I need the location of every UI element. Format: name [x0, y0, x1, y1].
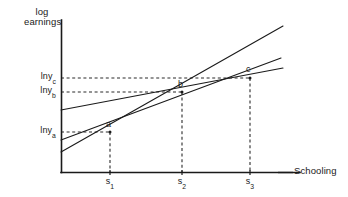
- point-marker-a: [109, 131, 112, 134]
- point-label-a: a: [106, 120, 111, 129]
- axes-group: [61, 20, 300, 173]
- x-tick-label-s3: s3: [241, 177, 259, 186]
- y-tick-label-lnyc: lnyc: [22, 72, 56, 81]
- x-tick-label-s2-sub: 2: [182, 183, 186, 190]
- x-tick-label-s1-sub: 1: [110, 183, 114, 190]
- y-tick-label-lnyb-sub: b: [52, 92, 56, 99]
- data-lines-group: [61, 26, 283, 152]
- y-tick-label-lnya-base: lny: [40, 125, 52, 135]
- y-tick-label-lnyc-base: lny: [41, 71, 53, 81]
- x-tick-label-s1: s1: [101, 177, 119, 186]
- y-tick-label-lnyc-sub: c: [53, 78, 57, 85]
- y-tick-label-lnyb-base: lny: [40, 85, 52, 95]
- x-axis-title: Schooling: [294, 166, 337, 176]
- y-tick-label-lnya-sub: a: [52, 132, 56, 139]
- point-marker-b: [181, 91, 184, 94]
- figure-canvas: log earnings Schooling lnyc lnyb lnya s1…: [0, 0, 348, 197]
- point-marker-c: [249, 77, 252, 80]
- earnings-line-steepest: [61, 26, 283, 152]
- x-tick-label-s2: s2: [173, 177, 191, 186]
- y-tick-label-lnyb: lnyb: [22, 86, 56, 95]
- y-tick-label-lnya: lnya: [22, 126, 56, 135]
- x-tick-label-s3-sub: 3: [250, 183, 254, 190]
- point-label-b: b: [178, 80, 183, 89]
- y-axis-title: log earnings: [24, 7, 60, 27]
- y-axis-title-line2: earnings: [24, 17, 60, 27]
- point-label-c: c: [246, 65, 251, 74]
